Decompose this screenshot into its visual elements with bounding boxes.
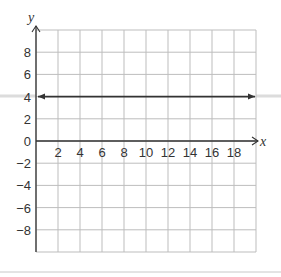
background-band-right <box>256 95 281 98</box>
y-tick-label: 6 <box>24 67 31 82</box>
x-tick-label: 8 <box>120 145 127 160</box>
y-tick-label: 8 <box>24 45 31 60</box>
y-axis-label: y <box>26 10 35 25</box>
x-tick-label: 10 <box>139 145 153 160</box>
x-tick-label: 4 <box>76 145 83 160</box>
right-arrow-icon <box>248 94 255 100</box>
y-tick-label: 2 <box>24 112 31 127</box>
y-tick-label: −2 <box>16 156 31 171</box>
x-tick-label: 18 <box>227 145 241 160</box>
y-tick-label: −4 <box>16 178 31 193</box>
left-arrow-icon <box>38 94 45 100</box>
coordinate-plane: 2468101214161886420−2−4−6−8 y x <box>0 0 281 277</box>
x-tick-label: 12 <box>161 145 175 160</box>
y-tick-label: 0 <box>24 134 31 149</box>
x-tick-label: 16 <box>205 145 219 160</box>
y-tick-label: −6 <box>16 201 31 216</box>
y-tick-label: −8 <box>16 223 31 238</box>
x-axis-label: x <box>259 134 267 149</box>
x-tick-label: 2 <box>54 145 61 160</box>
y-tick-label: 4 <box>24 90 31 105</box>
x-tick-label: 14 <box>183 145 197 160</box>
x-tick-label: 6 <box>98 145 105 160</box>
